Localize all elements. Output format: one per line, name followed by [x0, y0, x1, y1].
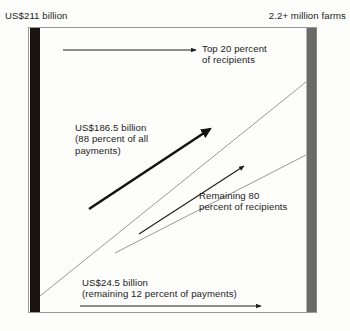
total-farms-bar [307, 28, 317, 312]
top-group-label: Top 20 percent of recipients [202, 43, 267, 66]
diagram-frame [29, 28, 317, 313]
minor-payments-label: US$24.5 billion (remaining 12 percent of… [82, 277, 237, 300]
remaining-group-label: Remaining 80 percent of recipients [199, 190, 288, 213]
major-payments-label: US$186.5 billion (88 percent of all paym… [75, 122, 148, 156]
connector-line-upper [40, 82, 306, 296]
figure-container: US$211 billion 2.2+ million farms Top [0, 0, 350, 331]
total-payments-bar [30, 28, 40, 312]
